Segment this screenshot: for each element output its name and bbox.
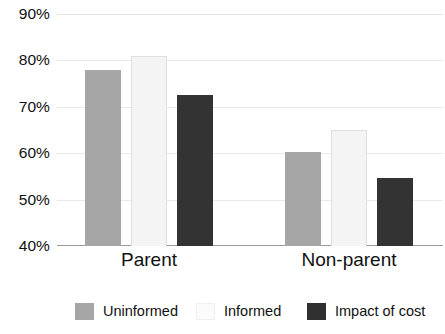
plot-area (57, 14, 443, 246)
legend-swatch-icon-impact-of-cost (307, 303, 326, 320)
bar-parent-informed[interactable] (131, 56, 167, 246)
legend-label-uninformed: Uninformed (103, 303, 178, 319)
bar-non-parent-uninformed[interactable] (285, 152, 321, 246)
y-tick-label: 80% (19, 51, 50, 69)
legend-swatch-icon-informed (196, 303, 215, 320)
bar-non-parent-impact-of-cost[interactable] (377, 178, 413, 246)
bar-group-parent (69, 14, 229, 246)
bar-parent-uninformed[interactable] (85, 70, 121, 246)
legend-label-impact-of-cost: Impact of cost (335, 303, 425, 319)
bar-group-non-parent-bars (269, 14, 429, 246)
plot-wrapper: 90% 80% 70% 60% 50% 40% (0, 0, 445, 290)
y-tick-label: 90% (19, 5, 50, 23)
x-category-label-parent: Parent (121, 249, 177, 271)
y-tick-label: 70% (19, 98, 50, 116)
bar-group-non-parent (269, 14, 429, 246)
legend-item-impact-of-cost[interactable]: Impact of cost (307, 303, 425, 320)
y-tick-label: 50% (19, 191, 50, 209)
bar-parent-impact-of-cost[interactable] (177, 95, 213, 246)
x-category-label-non-parent: Non-parent (301, 249, 396, 271)
legend-label-informed: Informed (224, 303, 281, 319)
legend-swatch-icon-uninformed (75, 303, 94, 320)
chart-legend: Uninformed Informed Impact of cost (0, 296, 445, 326)
bar-non-parent-informed[interactable] (331, 130, 367, 246)
y-tick-label: 60% (19, 144, 50, 162)
legend-item-uninformed[interactable]: Uninformed (75, 303, 178, 320)
y-tick-label: 40% (19, 237, 50, 255)
x-axis: Parent Non-parent (57, 249, 443, 283)
y-axis: 90% 80% 70% 60% 50% 40% (0, 0, 56, 290)
bar-group-parent-bars (69, 14, 229, 246)
legend-item-informed[interactable]: Informed (196, 303, 281, 320)
bar-chart: 90% 80% 70% 60% 50% 40% (0, 0, 445, 334)
